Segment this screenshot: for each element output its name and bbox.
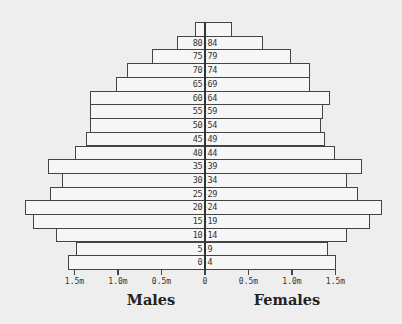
pyramid-bar-85plus xyxy=(195,22,232,37)
x-tick-label: 1.5m xyxy=(55,277,95,286)
x-tick-mark xyxy=(74,270,75,275)
x-tick-label: 0.5m xyxy=(142,277,182,286)
x-tick-mark xyxy=(161,270,162,275)
x-tick-mark xyxy=(291,270,292,275)
x-tick-mark xyxy=(335,270,336,275)
x-tick-label: 1.0m xyxy=(98,277,138,286)
center-axis-line xyxy=(204,22,205,275)
males-axis-label: Males xyxy=(101,291,201,308)
x-tick-label: 0.5m xyxy=(229,277,269,286)
x-tick-label: 1.5m xyxy=(316,277,356,286)
x-tick-label: 0 xyxy=(185,277,225,286)
females-axis-label: Females xyxy=(237,291,337,308)
x-tick-mark xyxy=(204,270,205,275)
x-tick-mark xyxy=(117,270,118,275)
x-tick-label: 1.0m xyxy=(272,277,312,286)
x-tick-mark xyxy=(248,270,249,275)
population-pyramid-chart: 80-8475-7970-7465-6960-6455-5950-5445-49… xyxy=(0,0,402,324)
